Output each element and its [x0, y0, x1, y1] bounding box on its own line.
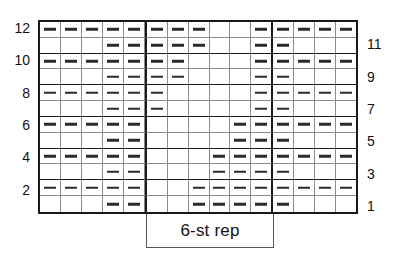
purl-symbol: [213, 186, 225, 189]
chart-cell-r11-c9: [210, 38, 231, 54]
purl-symbol: [255, 139, 267, 142]
chart-cell-r9-c5: [124, 69, 145, 85]
purl-symbol: [128, 155, 140, 158]
purl-symbol: [86, 123, 98, 126]
purl-symbol: [277, 171, 289, 174]
purl-symbol: [340, 28, 352, 31]
purl-symbol: [128, 44, 140, 47]
chart-cell-r1-c15: [336, 196, 356, 212]
chart-cell-r7-c7: [168, 101, 189, 117]
chart-cell-r6-c13: [294, 117, 315, 133]
chart-cell-r1-c10: [230, 196, 251, 212]
purl-symbol: [277, 155, 289, 158]
chart-cell-r9-c8: [189, 69, 210, 85]
purl-symbol: [319, 28, 331, 31]
chart-cell-r8-c3: [82, 85, 103, 101]
purl-symbol: [172, 60, 184, 63]
chart-cell-r9-c2: [61, 69, 82, 85]
purl-symbol: [151, 76, 163, 79]
chart-cell-r5-c14: [315, 133, 336, 149]
chart-cell-r7-c3: [82, 101, 103, 117]
chart-row-3: [40, 164, 356, 180]
chart-cell-r12-c5: [124, 22, 145, 38]
chart-cell-r2-c10: [230, 180, 251, 196]
chart-cell-r10-c10: [230, 54, 251, 70]
purl-symbol: [340, 123, 352, 126]
chart-cell-r3-c13: [294, 164, 315, 180]
chart-cell-r1-c4: [103, 196, 124, 212]
row-number-2: 2: [22, 183, 30, 197]
purl-symbol: [44, 28, 56, 31]
purl-symbol: [128, 60, 140, 63]
purl-symbol: [234, 203, 246, 206]
purl-symbol: [151, 107, 163, 110]
chart-cell-r4-c6: [145, 149, 168, 165]
chart-cell-r12-c10: [230, 22, 251, 38]
chart-cell-r12-c13: [294, 22, 315, 38]
purl-symbol: [107, 203, 119, 206]
purl-symbol: [128, 123, 140, 126]
chart-cell-r1-c13: [294, 196, 315, 212]
purl-symbol: [86, 60, 98, 63]
chart-cell-r4-c11: [251, 149, 273, 165]
chart-cell-r9-c10: [230, 69, 251, 85]
chart-row-5: [40, 133, 356, 149]
purl-symbol: [255, 186, 267, 189]
chart-row-7: [40, 101, 356, 117]
chart-cell-r4-c14: [315, 149, 336, 165]
chart-cell-r10-c15: [336, 54, 356, 70]
purl-symbol: [255, 44, 267, 47]
purl-symbol: [277, 76, 289, 79]
purl-symbol: [86, 155, 98, 158]
chart-cell-r1-c9: [210, 196, 231, 212]
chart-cell-r1-c6: [145, 196, 168, 212]
purl-symbol: [107, 107, 119, 110]
row-number-3: 3: [367, 167, 375, 181]
row-number-6: 6: [22, 118, 30, 132]
chart-row-12: [40, 22, 356, 38]
chart-cell-r2-c14: [315, 180, 336, 196]
purl-symbol: [44, 123, 56, 126]
chart-cell-r5-c15: [336, 133, 356, 149]
chart-cell-r1-c8: [189, 196, 210, 212]
chart-cell-r5-c12: [273, 133, 294, 149]
chart-cell-r2-c12: [273, 180, 294, 196]
chart-cell-r7-c15: [336, 101, 356, 117]
chart-cell-r7-c4: [103, 101, 124, 117]
purl-symbol: [44, 155, 56, 158]
chart-cell-r7-c13: [294, 101, 315, 117]
chart-row-4: [40, 149, 356, 165]
purl-symbol: [65, 28, 77, 31]
chart-cell-r3-c4: [103, 164, 124, 180]
chart-cell-r9-c15: [336, 69, 356, 85]
purl-symbol: [86, 91, 98, 94]
chart-cell-r11-c3: [82, 38, 103, 54]
purl-symbol: [255, 76, 267, 79]
chart-cell-r7-c6: [145, 101, 168, 117]
chart-row-1: [40, 196, 356, 212]
purl-symbol: [298, 186, 310, 189]
row-number-9: 9: [367, 70, 375, 84]
row-number-5: 5: [367, 134, 375, 148]
row-number-8: 8: [22, 86, 30, 100]
purl-symbol: [277, 186, 289, 189]
purl-symbol: [277, 139, 289, 142]
chart-cell-r4-c2: [61, 149, 82, 165]
chart-cell-r1-c2: [61, 196, 82, 212]
chart-cell-r12-c2: [61, 22, 82, 38]
purl-symbol: [128, 76, 140, 79]
purl-symbol: [86, 28, 98, 31]
chart-cell-r8-c7: [168, 85, 189, 101]
chart-cell-r10-c12: [273, 54, 294, 70]
chart-cell-r6-c10: [230, 117, 251, 133]
purl-symbol: [340, 91, 352, 94]
chart-cell-r11-c11: [251, 38, 273, 54]
purl-symbol: [234, 155, 246, 158]
chart-cell-r2-c7: [168, 180, 189, 196]
purl-symbol: [277, 203, 289, 206]
chart-cell-r5-c13: [294, 133, 315, 149]
chart-cell-r8-c2: [61, 85, 82, 101]
purl-symbol: [193, 44, 205, 47]
purl-symbol: [255, 91, 267, 94]
chart-cell-r5-c10: [230, 133, 251, 149]
